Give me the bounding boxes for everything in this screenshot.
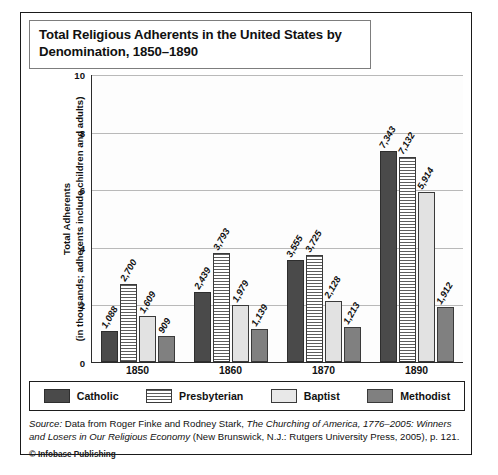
bar-presbyterian-1870[interactable]: 3,725 <box>306 255 323 362</box>
source-prefix: Source: <box>29 418 62 429</box>
plot-wrapper: Total Adherents (in thousands; adherents… <box>29 75 465 375</box>
chart-legend: CatholicPresbyterianBaptistMethodist <box>29 381 465 411</box>
presbyterian-swatch <box>146 389 172 403</box>
y-axis-label: Total Adherents (in thousands; adherents… <box>29 75 63 363</box>
bar-catholic-1870[interactable]: 3,555 <box>287 260 304 362</box>
bar-catholic-1850[interactable]: 1,088 <box>101 331 118 362</box>
bar-catholic-1890[interactable]: 7,343 <box>380 151 397 362</box>
plot-area: 1,0882,7001,6099092,4393,7931,9791,1393,… <box>92 75 463 362</box>
bar-value-label: 1,912 <box>434 280 455 306</box>
y-tick-label: 0 <box>80 358 85 369</box>
legend-item-catholic[interactable]: Catholic <box>44 389 119 403</box>
copyright-text: Infobase Publishing <box>38 450 116 459</box>
bar-presbyterian-1860[interactable]: 3,793 <box>213 253 230 362</box>
bar-value-label: 1,088 <box>98 304 119 330</box>
figure-frame: Total Religious Adherents in the United … <box>20 12 472 455</box>
y-axis-ticks: 1086420 <box>63 75 89 363</box>
x-axis-ticks: 1850186018701890 <box>91 365 463 376</box>
baptist-swatch <box>271 389 297 403</box>
bar-value-label: 5,914 <box>415 165 436 191</box>
bar-presbyterian-1890[interactable]: 7,132 <box>399 157 416 362</box>
x-tick-label: 1850 <box>91 365 184 376</box>
y-tick-label: 6 <box>80 185 85 196</box>
bar-group: 2,4393,7931,9791,139 <box>185 75 278 362</box>
x-tick-label: 1890 <box>370 365 463 376</box>
legend-item-methodist[interactable]: Methodist <box>367 389 450 403</box>
page-title: Total Religious Adherents in the United … <box>39 27 362 61</box>
source-block: Source: Data from Roger Finke and Rodney… <box>29 417 465 459</box>
legend-label: Catholic <box>77 390 119 402</box>
legend-item-baptist[interactable]: Baptist <box>271 389 340 403</box>
bar-value-label: 1,213 <box>341 300 362 326</box>
bar-baptist-1890[interactable]: 5,914 <box>418 192 435 362</box>
bar-value-label: 1,979 <box>229 278 250 304</box>
bar-value-label: 3,793 <box>210 226 231 252</box>
bar-methodist-1860[interactable]: 1,139 <box>251 329 268 362</box>
bar-presbyterian-1850[interactable]: 2,700 <box>120 284 137 362</box>
legend-item-presbyterian[interactable]: Presbyterian <box>146 389 243 403</box>
x-tick-label: 1860 <box>184 365 277 376</box>
source-body-2: (New Brunswick, N.J.: Rutgers University… <box>190 431 459 442</box>
bar-value-label: 3,725 <box>303 228 324 254</box>
copyright-icon: © <box>29 449 36 459</box>
chart-axes: 1,0882,7001,6099092,4393,7931,9791,1393,… <box>91 75 463 363</box>
bar-methodist-1850[interactable]: 909 <box>158 336 175 362</box>
bar-baptist-1850[interactable]: 1,609 <box>139 316 156 362</box>
bar-baptist-1870[interactable]: 2,128 <box>325 301 342 362</box>
bar-value-label: 7,132 <box>396 130 417 156</box>
y-tick-label: 8 <box>80 127 85 138</box>
bar-group: 1,0882,7001,609909 <box>92 75 185 362</box>
legend-label: Methodist <box>400 390 450 402</box>
bar-group: 7,3437,1325,9141,912 <box>370 75 463 362</box>
catholic-swatch <box>44 389 70 403</box>
bar-value-label: 7,343 <box>377 124 398 150</box>
legend-label: Presbyterian <box>179 390 243 402</box>
x-tick-label: 1870 <box>277 365 370 376</box>
chart-title-box: Total Religious Adherents in the United … <box>29 20 371 69</box>
bar-group: 3,5553,7252,1281,213 <box>278 75 371 362</box>
source-citation: Source: Data from Roger Finke and Rodney… <box>29 417 465 443</box>
bar-value-label: 2,700 <box>117 257 138 283</box>
bar-value-label: 2,128 <box>322 274 343 300</box>
bar-value-label: 3,555 <box>284 233 305 259</box>
legend-label: Baptist <box>304 390 340 402</box>
bar-value-label: 1,609 <box>136 289 157 315</box>
bar-value-label: 1,139 <box>248 302 269 328</box>
bar-methodist-1870[interactable]: 1,213 <box>344 327 361 362</box>
methodist-swatch <box>367 389 393 403</box>
y-tick-label: 2 <box>80 300 85 311</box>
bar-methodist-1890[interactable]: 1,912 <box>437 307 454 362</box>
source-body-1: Data from Roger Finke and Rodney Stark, <box>62 418 247 429</box>
bar-catholic-1860[interactable]: 2,439 <box>194 292 211 362</box>
bar-value-label: 2,439 <box>191 265 212 291</box>
bar-baptist-1860[interactable]: 1,979 <box>232 305 249 362</box>
bar-value-label: 909 <box>155 316 172 335</box>
y-tick-label: 4 <box>80 242 85 253</box>
y-tick-label: 10 <box>74 70 85 81</box>
copyright-line: © Infobase Publishing <box>29 449 465 459</box>
